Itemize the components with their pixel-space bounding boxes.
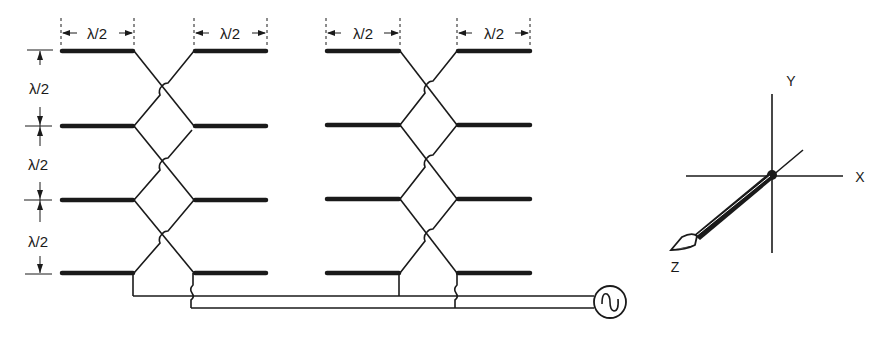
xyz-axes: Y X Z [671,73,866,275]
dim-label-vertical-1: λ/2 [29,80,49,97]
vertical-dimension-markers: λ/2 λ/2 λ/2 [24,50,53,274]
axis-label-z: Z [671,259,680,275]
dim-label-top-2: λ/2 [220,25,240,42]
feed-line [133,296,594,308]
antenna-array-diagram: λ/2 λ/2 λ/2 λ/2 λ/2 λ/2 λ/2 [0,0,887,337]
right-bay [327,51,530,308]
dim-label-top-1: λ/2 [87,25,107,42]
dim-label-top-3: λ/2 [353,25,373,42]
ac-source-icon [594,286,626,318]
axis-label-y: Y [786,73,796,89]
dim-label-vertical-3: λ/2 [28,233,48,250]
left-bay [62,51,266,308]
axis-label-x: X [855,169,865,185]
dim-label-top-4: λ/2 [484,25,504,42]
top-dimension-markers: λ/2 λ/2 λ/2 λ/2 [61,18,530,48]
dim-label-vertical-2: λ/2 [28,156,48,173]
